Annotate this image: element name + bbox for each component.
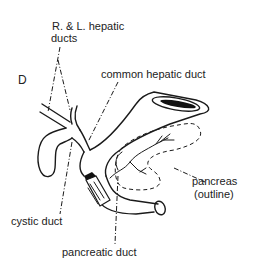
label-pancreas: pancreas	[192, 175, 238, 187]
gallbladder	[38, 128, 72, 177]
common-bile-duct-left	[72, 138, 84, 152]
hepatic-ducts	[40, 104, 80, 130]
leader-hepatic-left	[48, 47, 60, 112]
label-pancreatic-duct: pancreatic duct	[62, 246, 137, 258]
right-hepatic-duct-lower	[40, 112, 66, 128]
leader-common-hepatic	[88, 82, 118, 142]
leader-pancreatic-duct	[115, 176, 118, 244]
left-hepatic-duct-a	[71, 108, 73, 124]
anatomy-diagram: D R. & L. hepatic ducts common hepatic d…	[0, 0, 253, 270]
label-hepatic-ducts-line1: R. & L. hepatic	[52, 20, 125, 32]
pancreatic-duct-loop	[116, 152, 122, 170]
pancreatic-duct-main	[110, 138, 168, 178]
label-pancreas-outline: (outline)	[194, 188, 234, 200]
duodenum-end-opening	[153, 200, 167, 217]
left-hepatic-duct-b	[75, 106, 80, 130]
label-common-hepatic-duct: common hepatic duct	[101, 68, 206, 80]
duodenum-lower-inner	[106, 176, 158, 204]
pancreatic-duct-branches-head	[130, 162, 146, 174]
label-hepatic-ducts-line2: ducts	[51, 32, 78, 44]
right-hepatic-duct-upper	[42, 104, 70, 122]
label-cystic-duct: cystic duct	[11, 215, 62, 227]
pancreas-outline	[115, 124, 200, 190]
panel-letter: D	[18, 73, 27, 87]
duodenum	[80, 92, 208, 216]
pancreatic-duct-tree	[110, 134, 174, 178]
leader-hepatic-right	[58, 60, 70, 110]
duodenum-wall-left	[80, 152, 84, 176]
leader-cystic-duct	[60, 142, 72, 214]
